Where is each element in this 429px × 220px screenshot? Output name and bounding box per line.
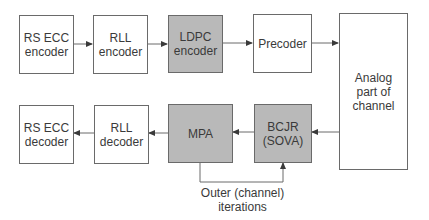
rs-ecc-encoder-block: RS ECC encoder [19, 15, 74, 74]
bcjr-sova-block: BCJR (SOVA) [254, 104, 312, 163]
ldpc-encoder-block: LDPC encoder [168, 15, 223, 73]
rll-decoder-block: RLL decoder [94, 105, 149, 164]
feedback-loop-mpa-to-bcjr [200, 162, 283, 182]
rll-encoder-label: RLL encoder [99, 31, 142, 59]
precoder-block: Precoder [253, 14, 312, 73]
analog-channel-block: Analog part of channel [339, 13, 408, 170]
mpa-label: MPA [188, 127, 213, 141]
rll-encoder-block: RLL encoder [93, 15, 148, 74]
ldpc-encoder-label: LDPC encoder [174, 30, 217, 58]
bcjr-sova-label: BCJR (SOVA) [263, 120, 303, 148]
analog-channel-label: Analog part of channel [352, 71, 394, 113]
rs-ecc-decoder-label: RS ECC decoder [24, 121, 69, 149]
rs-ecc-decoder-block: RS ECC decoder [19, 105, 74, 164]
precoder-label: Precoder [258, 37, 307, 51]
feedback-loop-caption: Outer (channel) iterations [195, 186, 290, 214]
rll-decoder-label: RLL decoder [100, 121, 143, 149]
rs-ecc-encoder-label: RS ECC encoder [24, 31, 69, 59]
mpa-block: MPA [168, 104, 233, 163]
